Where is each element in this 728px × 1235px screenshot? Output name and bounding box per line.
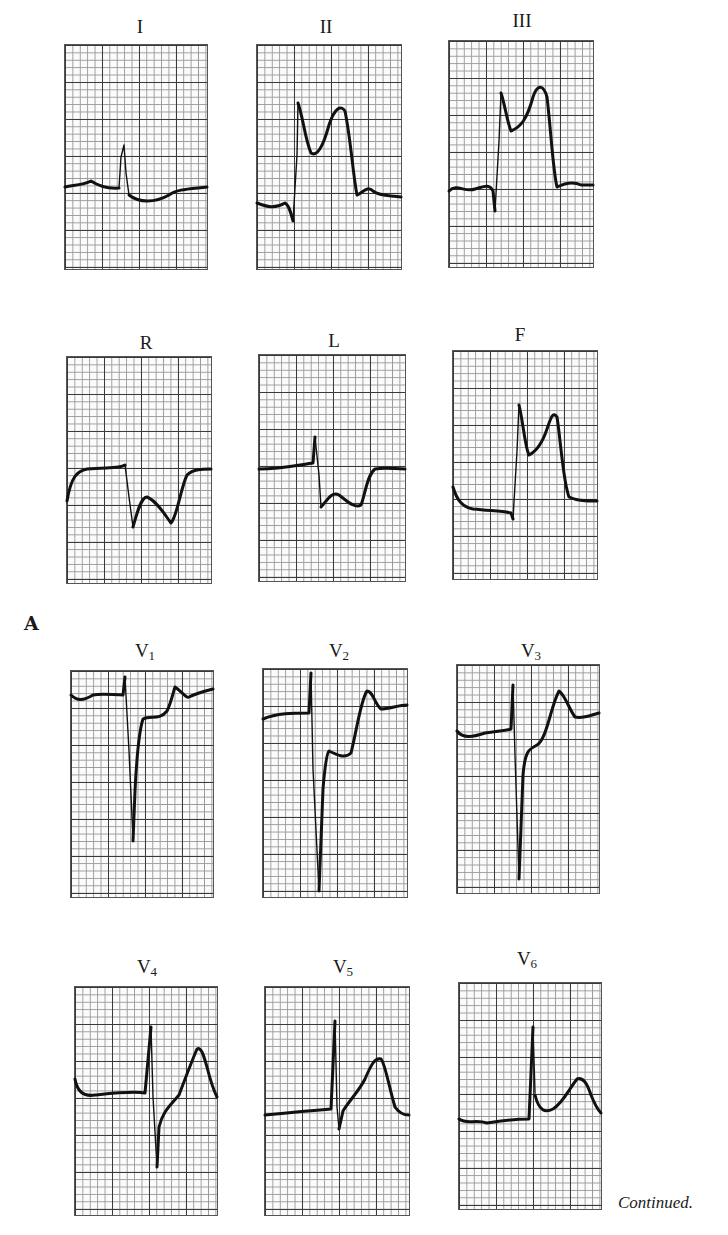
ecg-panel-II bbox=[256, 44, 402, 270]
ecg-panel-F bbox=[452, 350, 598, 580]
lead-label-I: I bbox=[120, 16, 160, 38]
ecg-panel-III bbox=[448, 40, 594, 268]
lead-label-V2: V2 bbox=[314, 640, 364, 664]
ecg-panel-R bbox=[66, 356, 212, 584]
trace-III bbox=[449, 41, 593, 267]
figure-caption: Continued. bbox=[618, 1193, 693, 1213]
trace-V2 bbox=[263, 669, 407, 897]
trace-V4 bbox=[75, 987, 217, 1215]
lead-label-R: R bbox=[126, 332, 166, 354]
ecg-panel-I bbox=[64, 44, 208, 270]
trace-V5 bbox=[265, 987, 409, 1215]
lead-label-V1: V1 bbox=[120, 640, 170, 664]
trace-II bbox=[257, 45, 401, 269]
figure-panel-label: A bbox=[24, 612, 39, 634]
trace-V1 bbox=[71, 671, 213, 897]
trace-R bbox=[67, 357, 211, 583]
trace-L bbox=[259, 355, 405, 581]
lead-label-F: F bbox=[500, 324, 540, 346]
trace-I bbox=[65, 45, 207, 269]
lead-label-V6: V6 bbox=[502, 948, 552, 972]
ecg-panel-V6 bbox=[458, 982, 602, 1210]
ecg-panel-V2 bbox=[262, 668, 408, 898]
trace-V3 bbox=[457, 665, 599, 893]
ecg-panel-V4 bbox=[74, 986, 218, 1216]
lead-label-L: L bbox=[314, 330, 354, 352]
ecg-panel-V3 bbox=[456, 664, 600, 894]
lead-label-II: II bbox=[306, 16, 346, 38]
lead-label-V3: V3 bbox=[506, 640, 556, 664]
ecg-panel-V5 bbox=[264, 986, 410, 1216]
ecg-panel-V1 bbox=[70, 670, 214, 898]
trace-F bbox=[453, 351, 597, 579]
lead-label-V5: V5 bbox=[318, 956, 368, 980]
trace-V6 bbox=[459, 983, 601, 1209]
ecg-panel-L bbox=[258, 354, 406, 582]
lead-label-V4: V4 bbox=[122, 956, 172, 980]
lead-label-III: III bbox=[498, 10, 546, 32]
